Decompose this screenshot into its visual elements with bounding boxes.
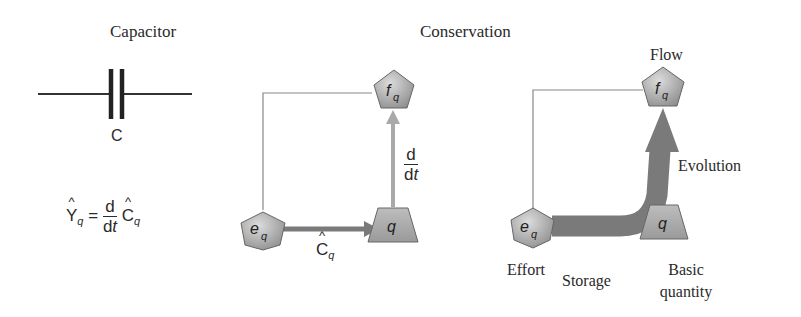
svg-text:q: q xyxy=(531,228,538,240)
admittance-symbol: Y xyxy=(66,206,77,226)
conservation-title: Conservation xyxy=(420,22,511,42)
capacitance-symbol: C xyxy=(122,206,134,226)
derivative-fraction: d dt xyxy=(103,198,117,235)
capacitor-formula: Yq = d dt Cq xyxy=(66,198,140,235)
flow-label: Flow xyxy=(650,46,683,64)
evolution-label: Evolution xyxy=(678,157,741,175)
svg-text:e: e xyxy=(520,218,529,235)
svg-text:q: q xyxy=(261,230,268,242)
effort-label: Effort xyxy=(507,261,545,279)
basic-quantity-label: Basic quantity xyxy=(656,259,716,303)
svg-text:q: q xyxy=(393,91,400,103)
svg-text:e: e xyxy=(250,220,259,237)
capacitor-symbol xyxy=(38,69,192,119)
svg-text:q: q xyxy=(662,89,669,101)
svg-text:q: q xyxy=(387,218,396,235)
svg-text:q: q xyxy=(658,215,667,232)
capacitor-title: Capacitor xyxy=(110,22,176,42)
storage-label: Storage xyxy=(562,272,611,290)
capacitor-label: C xyxy=(111,127,123,145)
derivative-edge-label: d dt xyxy=(404,146,418,183)
equals-sign: = xyxy=(88,206,98,225)
storage-edge-label: Cq xyxy=(316,240,334,261)
